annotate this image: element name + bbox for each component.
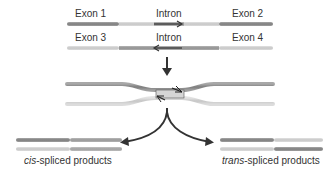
- down-arrow-icon: [162, 57, 172, 76]
- trans-prefix: trans: [222, 155, 244, 166]
- intron-2-label: Intron: [156, 32, 182, 43]
- trans-products-caption: trans-spliced products: [222, 155, 320, 166]
- exon-3-label: Exon 3: [75, 32, 106, 43]
- exon-4-label: Exon 4: [232, 32, 263, 43]
- cis-products-caption: cis-spliced products: [24, 155, 112, 166]
- intron-1-label: Intron: [156, 8, 182, 19]
- exon-1-label: Exon 1: [75, 8, 106, 19]
- cis-products: [16, 138, 122, 151]
- branch-arrows-icon: [120, 108, 214, 146]
- strand-2: [67, 45, 273, 51]
- strand-1: [67, 21, 273, 27]
- exon-2-label: Exon 2: [232, 8, 263, 19]
- trans-suffix: -spliced products: [244, 155, 320, 166]
- cis-prefix: cis: [24, 155, 36, 166]
- trans-products: [220, 138, 323, 151]
- crossover-intermediate: [67, 84, 273, 104]
- splicing-diagram: [0, 0, 331, 173]
- cis-suffix: -spliced products: [36, 155, 112, 166]
